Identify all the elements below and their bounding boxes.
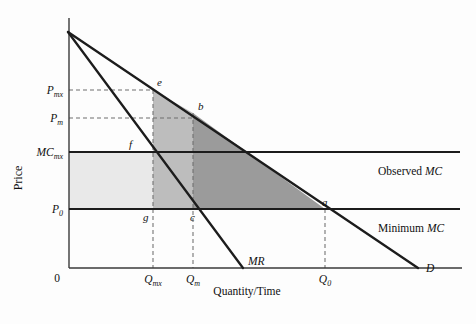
shaded-regions-layer bbox=[69, 90, 325, 209]
minimum_mc-label: Minimum MC bbox=[378, 222, 444, 234]
x-tick-q_m: Qm bbox=[186, 273, 200, 288]
y-tick-p_m: Pm bbox=[49, 112, 63, 127]
region-light-rectangle bbox=[69, 152, 153, 209]
x-tick-q_mx: Qmx bbox=[144, 273, 162, 288]
y-axis-title: Price bbox=[11, 166, 25, 191]
economics-diagram: Observed MCMinimum MC DMR PmxPmMCmxP0Qmx… bbox=[0, 0, 476, 324]
point-label-a: a bbox=[322, 196, 328, 208]
marginal_revenue-label: MR bbox=[247, 255, 265, 267]
origin-label: 0 bbox=[54, 272, 60, 284]
demand-line bbox=[68, 32, 418, 268]
y-tick-p_0: P0 bbox=[51, 203, 63, 218]
point-label-c: c bbox=[190, 211, 195, 223]
x-axis-title: Quantity/Time bbox=[213, 285, 280, 298]
point-label-b: b bbox=[198, 100, 204, 112]
point-label-f: f bbox=[129, 138, 134, 150]
diagram-canvas: Observed MCMinimum MC DMR PmxPmMCmxP0Qmx… bbox=[0, 0, 476, 324]
observed_mc-label: Observed MC bbox=[378, 165, 443, 177]
point-label-g: g bbox=[143, 211, 149, 223]
y-tick-mc_mx: MCmx bbox=[35, 146, 63, 161]
y-tick-p_mx: Pmx bbox=[46, 84, 64, 99]
demand-label: D bbox=[425, 262, 435, 274]
x-tick-q_0: Q0 bbox=[319, 273, 331, 288]
point-label-e: e bbox=[157, 76, 162, 88]
